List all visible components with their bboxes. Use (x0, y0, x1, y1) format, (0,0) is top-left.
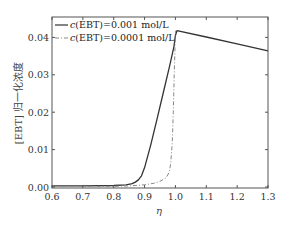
x-axis-label: η (156, 205, 162, 216)
series-dashdot-line (52, 31, 175, 187)
x-tick-label: 0.9 (137, 191, 152, 202)
y-tick-label: 0.01 (28, 144, 49, 155)
legend-entry-2: c(EBT)=0.0001 mol/L (70, 32, 175, 43)
series-layer (52, 31, 268, 187)
x-tick-label: 0.8 (106, 191, 121, 202)
y-tick-label: 0.00 (28, 182, 49, 193)
x-tick-label: 1.2 (230, 191, 245, 202)
line-chart: 0.60.70.80.91.01.11.21.3 0.000.010.020.0… (0, 0, 288, 225)
y-tick-label: 0.03 (28, 69, 49, 80)
y-tick-label: 0.04 (28, 32, 49, 43)
legend: c(EBT)=0.001 mol/L c(EBT)=0.0001 mol/L (55, 19, 175, 43)
x-tick-label: 0.7 (75, 191, 90, 202)
x-tick-label: 1.0 (168, 191, 183, 202)
y-tick-label: 0.02 (28, 107, 49, 118)
x-tick-label: 1.1 (199, 191, 214, 202)
x-tick-label: 0.6 (44, 191, 59, 202)
series-solid-line (52, 31, 268, 186)
y-axis-label: [EBT] 归一化浓度 (12, 62, 24, 144)
y-axis: 0.000.010.020.030.04 (28, 32, 268, 193)
legend-entry-1: c(EBT)=0.001 mol/L (70, 19, 169, 30)
x-tick-label: 1.3 (260, 191, 275, 202)
